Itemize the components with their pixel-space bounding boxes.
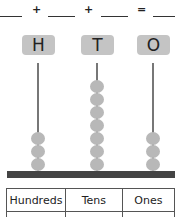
- header-hundreds: Hundreds: [7, 189, 66, 212]
- plus-sign: +: [84, 3, 93, 16]
- ones-label: O: [137, 35, 170, 55]
- bead: [146, 158, 160, 171]
- bead: [90, 106, 104, 119]
- answer-tens[interactable]: [65, 212, 122, 218]
- bead: [146, 145, 160, 158]
- tens-label: T: [81, 35, 114, 55]
- bead: [90, 93, 104, 106]
- bead: [90, 132, 104, 145]
- abacus-base: [7, 171, 175, 178]
- bead: [90, 145, 104, 158]
- table-answer-row: [7, 212, 175, 218]
- place-value-table: Hundreds Tens Ones: [6, 188, 175, 217]
- bead: [90, 119, 104, 132]
- bead: [146, 132, 160, 145]
- bead: [90, 158, 104, 171]
- bead: [31, 145, 45, 158]
- equals-sign: =: [137, 3, 146, 16]
- table-header-row: Hundreds Tens Ones: [7, 189, 175, 212]
- answer-ones[interactable]: [122, 212, 174, 218]
- answer-blank-3[interactable]: [101, 16, 128, 17]
- header-tens: Tens: [65, 189, 122, 212]
- answer-blank-2[interactable]: [48, 16, 75, 17]
- bead: [31, 132, 45, 145]
- answer-hundreds[interactable]: [7, 212, 66, 218]
- bead: [31, 158, 45, 171]
- answer-blank-4[interactable]: [153, 16, 175, 17]
- answer-blank-1[interactable]: [0, 16, 22, 17]
- header-ones: Ones: [122, 189, 174, 212]
- hundreds-label: H: [22, 35, 55, 55]
- plus-sign: +: [32, 3, 41, 16]
- bead: [90, 80, 104, 93]
